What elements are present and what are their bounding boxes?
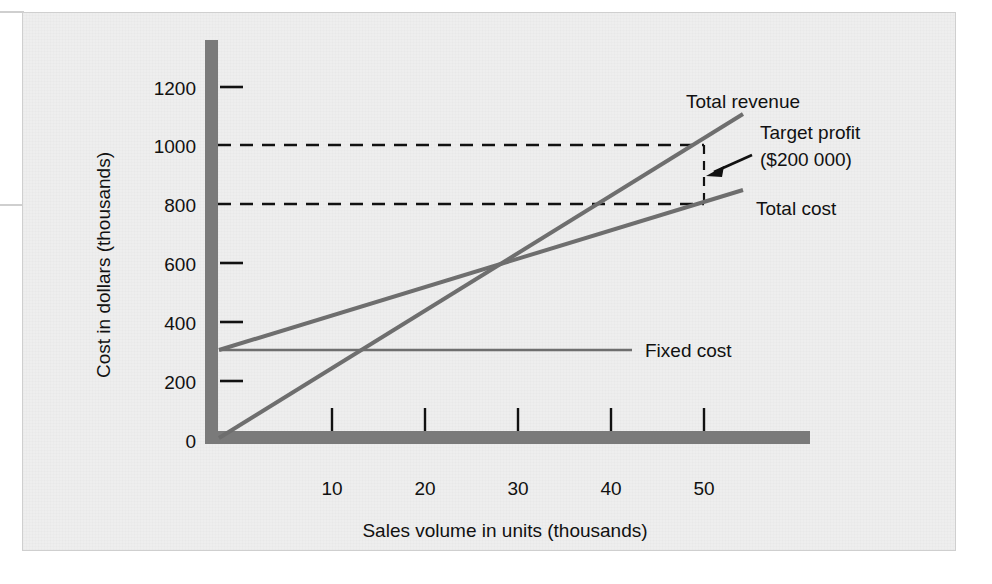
y-tick-label-1000: 1000 bbox=[154, 136, 196, 157]
total-revenue-line bbox=[219, 114, 743, 438]
chart-root: 1200 1000 800 600 400 200 0 10 20 30 40 … bbox=[0, 0, 992, 584]
guide-lines bbox=[218, 145, 704, 204]
total-revenue-label: Total revenue bbox=[686, 91, 800, 112]
x-tick-label-20: 20 bbox=[414, 478, 435, 499]
series-lines bbox=[219, 114, 743, 438]
total-cost-label: Total cost bbox=[756, 198, 837, 219]
y-axis-bar bbox=[205, 40, 218, 444]
target-profit-label-line2: ($200 000) bbox=[760, 149, 852, 170]
target-profit-label-line1: Target profit bbox=[760, 122, 861, 143]
total-cost-line bbox=[219, 190, 743, 350]
y-tick-label-1200: 1200 bbox=[154, 78, 196, 99]
y-tick-label-400: 400 bbox=[164, 313, 196, 334]
y-axis-ticks bbox=[220, 87, 243, 381]
y-tick-label-200: 200 bbox=[164, 372, 196, 393]
x-tick-label-40: 40 bbox=[600, 478, 621, 499]
x-tick-label-30: 30 bbox=[507, 478, 528, 499]
x-axis-bar bbox=[205, 431, 810, 444]
x-tick-label-10: 10 bbox=[321, 478, 342, 499]
x-tick-label-50: 50 bbox=[693, 478, 714, 499]
x-axis-ticks bbox=[332, 408, 704, 431]
y-axis-title: Cost in dollars (thousands) bbox=[93, 152, 114, 378]
y-tick-label-800: 800 bbox=[164, 195, 196, 216]
y-tick-label-0: 0 bbox=[185, 431, 196, 452]
y-tick-label-600: 600 bbox=[164, 254, 196, 275]
target-profit-arrow bbox=[706, 155, 752, 177]
cvp-break-even-chart: 1200 1000 800 600 400 200 0 10 20 30 40 … bbox=[0, 0, 992, 584]
fixed-cost-label: Fixed cost bbox=[645, 340, 732, 361]
x-axis-title: Sales volume in units (thousands) bbox=[362, 520, 647, 541]
